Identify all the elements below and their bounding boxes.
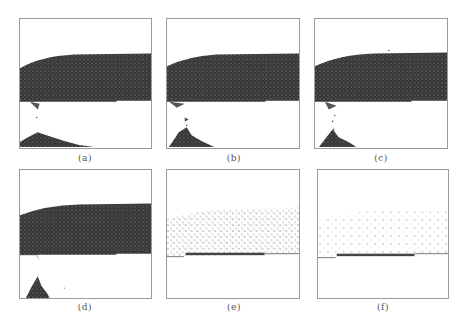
caption-e: (e) (204, 302, 264, 312)
panel-e (166, 169, 300, 299)
panel-c (314, 18, 448, 149)
panel-f (317, 169, 449, 299)
caption-a: (a) (55, 153, 115, 163)
particle-simulation-c (315, 19, 447, 148)
particle-simulation-d (20, 170, 151, 298)
panel-d (19, 169, 152, 299)
particle-simulation-e (167, 170, 299, 298)
particle-simulation-f (318, 170, 448, 298)
panel-a (19, 18, 152, 149)
caption-b: (b) (204, 153, 264, 163)
particle-simulation-a (20, 19, 151, 148)
caption-f: (f) (353, 302, 413, 312)
panel-b (166, 18, 300, 149)
caption-c: (c) (351, 153, 411, 163)
particle-simulation-b (167, 19, 299, 148)
caption-d: (d) (55, 302, 115, 312)
